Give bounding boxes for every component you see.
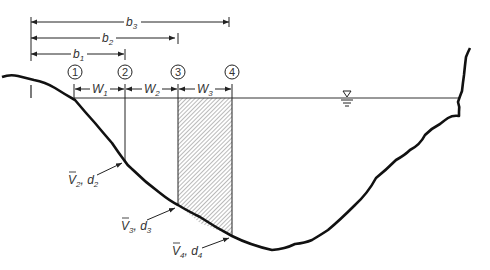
svg-text:V4, d4: V4, d4 <box>172 244 203 260</box>
svg-text:V2, d2: V2, d2 <box>68 173 99 189</box>
vertical-marker-1: 1 <box>68 65 82 98</box>
callout-v4-d4: V4, d4 <box>172 238 229 260</box>
vertical-marker-3: 3 <box>171 65 185 98</box>
label-b2: b2 <box>102 31 114 47</box>
cross-section-diagram: b3 b2 b1 1 2 3 4 W1 W2 W3 V2, d2 <box>0 0 490 270</box>
callout-v2-d2: V2, d2 <box>68 163 122 189</box>
svg-text:3: 3 <box>175 66 181 78</box>
vertical-marker-2: 2 <box>118 65 132 98</box>
label-w2: W2 <box>144 82 160 98</box>
svg-text:2: 2 <box>122 66 128 78</box>
svg-text:V3, d3: V3, d3 <box>121 219 152 235</box>
callout-v3-d3: V3, d3 <box>121 208 175 235</box>
hatched-subsection <box>178 98 232 236</box>
label-w3: W3 <box>197 82 213 98</box>
label-b3: b3 <box>126 15 138 31</box>
svg-text:1: 1 <box>72 66 78 78</box>
label-b1: b1 <box>73 47 84 63</box>
svg-text:4: 4 <box>229 66 235 78</box>
vertical-marker-4: 4 <box>225 65 239 98</box>
diagram-canvas: b3 b2 b1 1 2 3 4 W1 W2 W3 V2, d2 <box>0 0 490 270</box>
label-w1: W1 <box>92 82 108 98</box>
